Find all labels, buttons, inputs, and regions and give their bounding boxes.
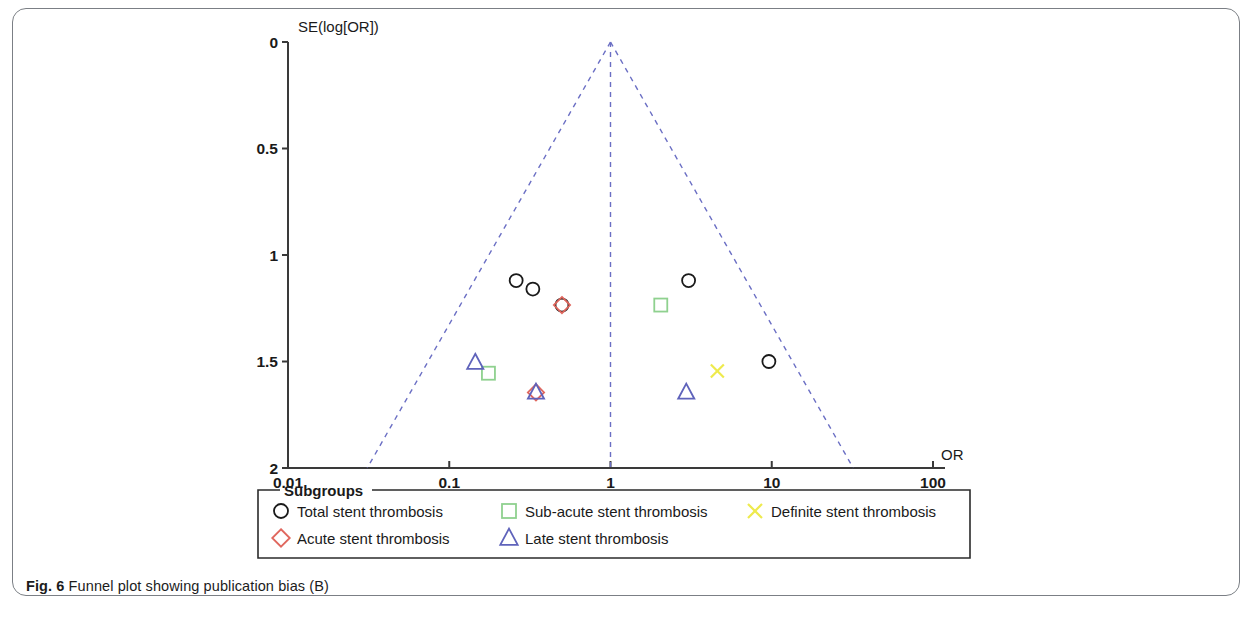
data-points <box>467 274 775 400</box>
legend-marker-triangle <box>500 529 517 545</box>
legend-entry[interactable]: Definite stent thrombosis <box>748 503 936 520</box>
data-point-circle <box>510 274 523 287</box>
legend-entry[interactable]: Acute stent thrombosis <box>272 529 449 547</box>
legend-marker-diamond <box>272 529 290 547</box>
legend-marker-square <box>502 504 516 518</box>
y-axis-title: SE(log[OR]) <box>298 18 379 35</box>
x-tick-label: 10 <box>763 474 780 491</box>
data-point-triangle <box>678 384 694 399</box>
funnel-plot-svg: 00.511.520.010.1110100SE(log[OR])OR Subg… <box>0 0 1248 617</box>
data-point-circle <box>762 355 775 368</box>
data-point-x <box>711 365 724 378</box>
legend-label: Sub-acute stent thrombosis <box>525 503 708 520</box>
legend-title: Subgroups <box>284 482 363 499</box>
data-point-circle <box>526 283 539 296</box>
y-tick-label: 1.5 <box>256 353 278 370</box>
legend-marker-circle <box>274 504 288 518</box>
x-tick-label: 0.1 <box>438 474 460 491</box>
plot-legend: SubgroupsTotal stent thrombosisSub-acute… <box>258 482 970 559</box>
y-tick-label: 0 <box>269 34 278 51</box>
legend-entry[interactable]: Total stent thrombosis <box>274 503 443 520</box>
data-point-triangle <box>467 354 483 369</box>
figure-caption: Fig. 6 Funnel plot showing publication b… <box>26 578 329 594</box>
x-tick-label: 100 <box>920 474 946 491</box>
caption-text: Funnel plot showing publication bias (B) <box>69 578 329 594</box>
funnel-right-line <box>611 42 854 468</box>
legend-label: Acute stent thrombosis <box>297 530 450 547</box>
data-point-square <box>654 299 667 312</box>
x-tick-label: 1 <box>606 474 615 491</box>
figure-page: 00.511.520.010.1110100SE(log[OR])OR Subg… <box>0 0 1248 617</box>
x-axis-title: OR <box>941 446 964 463</box>
funnel-plot-figure: 00.511.520.010.1110100SE(log[OR])OR Subg… <box>0 0 1248 617</box>
legend-entry[interactable]: Sub-acute stent thrombosis <box>502 503 708 520</box>
legend-label: Definite stent thrombosis <box>771 503 936 520</box>
legend-box <box>258 490 970 558</box>
caption-prefix: Fig. 6 <box>26 578 64 594</box>
legend-label: Late stent thrombosis <box>525 530 668 547</box>
data-point-circle <box>682 274 695 287</box>
legend-entry[interactable]: Late stent thrombosis <box>500 529 668 547</box>
funnel-left-line <box>367 42 610 468</box>
y-tick-label: 0.5 <box>256 140 278 157</box>
legend-label: Total stent thrombosis <box>297 503 443 520</box>
legend-marker-x <box>748 504 762 518</box>
funnel-lines <box>367 42 853 468</box>
y-tick-label: 1 <box>269 247 278 264</box>
